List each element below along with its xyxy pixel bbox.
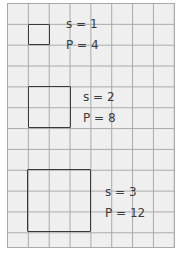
square-side-1 — [28, 24, 50, 45]
perimeter-label-2: P = 8 — [83, 111, 116, 125]
perimeter-label-1: P = 4 — [66, 38, 99, 52]
side-label-3: s = 3 — [105, 185, 137, 199]
side-label-2: s = 2 — [83, 90, 115, 104]
perimeter-label-3: P = 12 — [105, 206, 145, 220]
side-label-1: s = 1 — [66, 17, 98, 31]
square-side-3 — [27, 169, 91, 232]
square-side-2 — [28, 86, 71, 128]
